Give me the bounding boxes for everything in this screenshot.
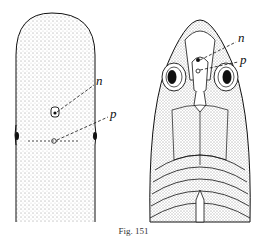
right-eye-icon xyxy=(214,63,238,91)
left-eye-icon xyxy=(15,132,19,140)
label-p-left: p xyxy=(110,106,117,122)
label-n-left: n xyxy=(96,73,103,89)
right-eye-icon xyxy=(93,132,97,140)
left-head-drawing xyxy=(15,13,108,222)
pineal-marker xyxy=(196,69,200,73)
label-p-right: p xyxy=(240,52,247,68)
right-head-drawing xyxy=(150,20,250,222)
left-eye-icon xyxy=(162,63,186,91)
nostril-marker xyxy=(196,58,200,62)
figure-caption: Fig. 151 xyxy=(0,226,267,237)
figure-illustration xyxy=(0,0,267,237)
label-n-right: n xyxy=(238,30,245,46)
